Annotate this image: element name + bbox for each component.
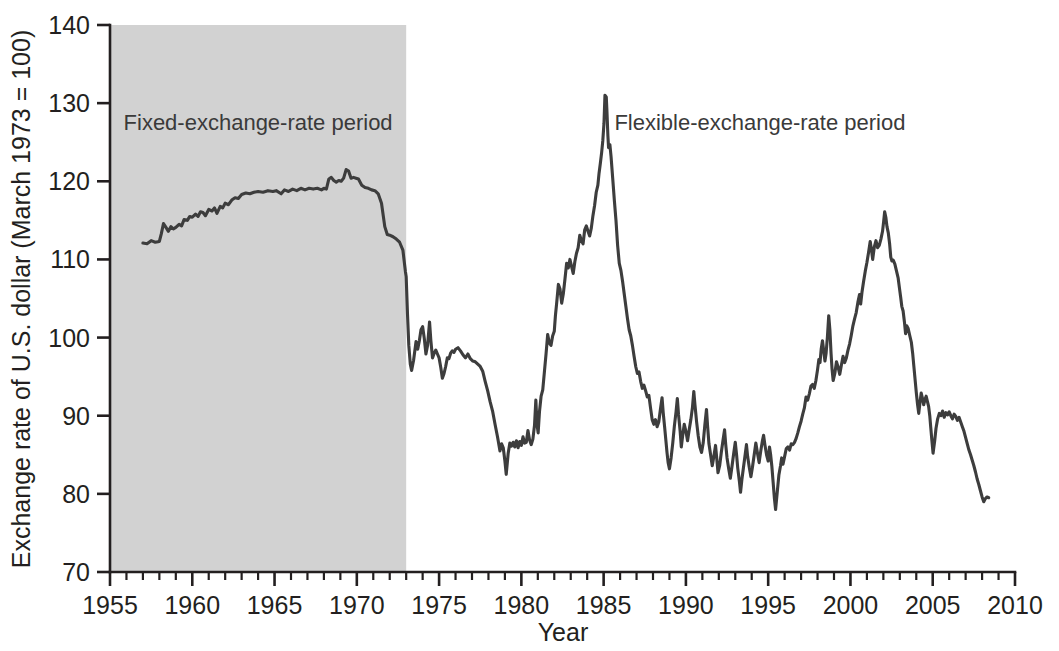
y-axis-tick-label: 140 — [48, 11, 90, 39]
x-axis-tick-label: 2010 — [987, 591, 1043, 619]
y-axis-tick-label: 100 — [48, 324, 90, 352]
x-axis-tick-label: 1980 — [494, 591, 550, 619]
y-axis-tick-label: 130 — [48, 89, 90, 117]
x-axis-tick-label: 1960 — [164, 591, 220, 619]
x-axis-tick-label: 1955 — [82, 591, 138, 619]
fixed-exchange-rate-band — [110, 25, 406, 572]
shaded-region-layer — [110, 25, 406, 572]
exchange-rate-line-chart: 7080901001101201301401955196019651970197… — [0, 0, 1059, 651]
y-axis-tick-label: 70 — [62, 558, 90, 586]
y-axis-tick-label: 120 — [48, 167, 90, 195]
y-axis-tick-label: 80 — [62, 480, 90, 508]
x-axis-tick-label: 1975 — [411, 591, 467, 619]
fixed-period-label: Fixed-exchange-rate period — [124, 110, 393, 135]
x-axis-tick-label: 1965 — [247, 591, 303, 619]
x-axis-tick-label: 1985 — [576, 591, 632, 619]
y-axis-title: Exchange rate of U.S. dollar (March 1973… — [7, 30, 35, 569]
flexible-period-label: Flexible-exchange-rate period — [614, 110, 905, 135]
chart-figure: 7080901001101201301401955196019651970197… — [0, 0, 1059, 651]
y-axis-tick-label: 90 — [62, 402, 90, 430]
x-axis-tick-label: 1990 — [658, 591, 714, 619]
x-axis-tick-label: 2005 — [905, 591, 961, 619]
x-axis-title: Year — [538, 618, 589, 646]
x-axis-tick-label: 1995 — [740, 591, 796, 619]
x-axis-tick-label: 1970 — [329, 591, 385, 619]
x-axis-tick-label: 2000 — [823, 591, 879, 619]
y-axis-tick-label: 110 — [50, 245, 90, 273]
